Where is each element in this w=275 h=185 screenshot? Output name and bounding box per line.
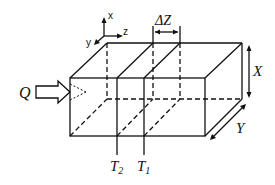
dz-label: ΔZ: [154, 13, 171, 28]
top-right-edge: [205, 43, 242, 78]
slice-t2-top: [117, 43, 153, 78]
inlet-dotted-lower: [70, 92, 86, 100]
x-arrow-up-icon: [247, 45, 252, 51]
t2-label: T2: [110, 158, 123, 176]
dz-arrow-right-icon: [173, 30, 178, 35]
depth-label: Y: [236, 120, 246, 136]
axis-z-label: z: [123, 26, 128, 37]
top-left-edge: [70, 43, 107, 78]
hidden-slice-t1-bottom: [144, 99, 180, 136]
dz-arrow-left-icon: [155, 30, 160, 35]
x-arrow-down-icon: [247, 92, 252, 98]
flow-arrow-icon: [36, 81, 70, 103]
axis-x-arrow-icon: [102, 17, 107, 23]
axis-y-label: y: [86, 37, 91, 48]
flow-label: Q: [19, 84, 31, 101]
axis-x-label: x: [108, 10, 113, 21]
inlet-dotted-upper: [70, 84, 86, 92]
front-face: [70, 78, 205, 136]
box-diagram: Q ΔZ X Y T2 T1 x z y: [0, 0, 275, 185]
t1-label: T1: [137, 158, 150, 176]
slice-t1-top: [144, 43, 180, 78]
hidden-slice-t2-bottom: [117, 99, 153, 136]
hidden-bottom-left-edge: [70, 99, 107, 136]
height-label: X: [252, 63, 263, 79]
